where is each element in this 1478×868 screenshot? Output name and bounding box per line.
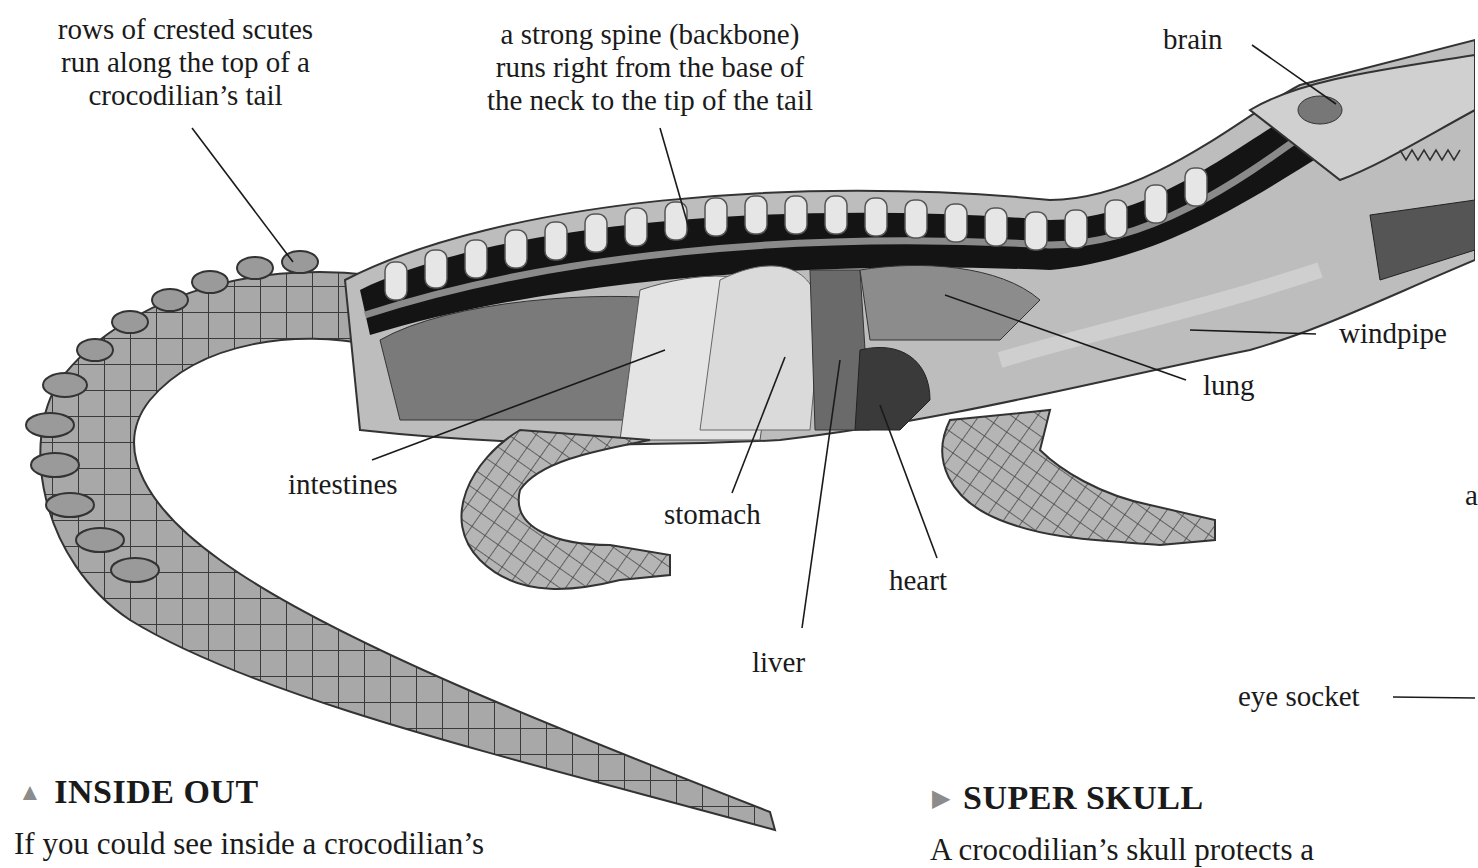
heading-title: SUPER SKULL [963, 779, 1204, 816]
label-liver: liver [752, 645, 805, 679]
label-stomach: stomach [664, 497, 761, 531]
label-heart: heart [889, 563, 947, 597]
callout-line: the neck to the tip of the tail [430, 84, 870, 117]
label-intestines: intestines [288, 467, 398, 501]
body-text-inside-out: If you could see inside a crocodilian’s [14, 826, 484, 862]
callout-scutes: rows of crested scutes run along the top… [8, 13, 363, 112]
label-eye-socket: eye socket [1238, 679, 1360, 713]
callout-line: a strong spine (backbone) [430, 18, 870, 51]
heading-title: INSIDE OUT [54, 773, 258, 810]
label-windpipe: windpipe [1339, 316, 1447, 350]
label-cut-off: a [1465, 478, 1478, 512]
body-text-super-skull: A crocodilian’s skull protects a [930, 832, 1314, 868]
callout-line: crocodilian’s tail [8, 79, 363, 112]
triangle-up-icon: ▲ [18, 779, 42, 805]
triangle-right-icon: ▶ [932, 785, 951, 811]
callout-line: run along the top of a [8, 46, 363, 79]
callout-line: runs right from the base of [430, 51, 870, 84]
label-brain: brain [1163, 22, 1223, 56]
callout-line: rows of crested scutes [8, 13, 363, 46]
heading-super-skull: ▶SUPER SKULL [932, 779, 1204, 817]
heading-inside-out: ▲INSIDE OUT [18, 773, 259, 811]
legs [461, 410, 1215, 589]
label-lung: lung [1203, 368, 1255, 402]
callout-spine: a strong spine (backbone) runs right fro… [430, 18, 870, 117]
